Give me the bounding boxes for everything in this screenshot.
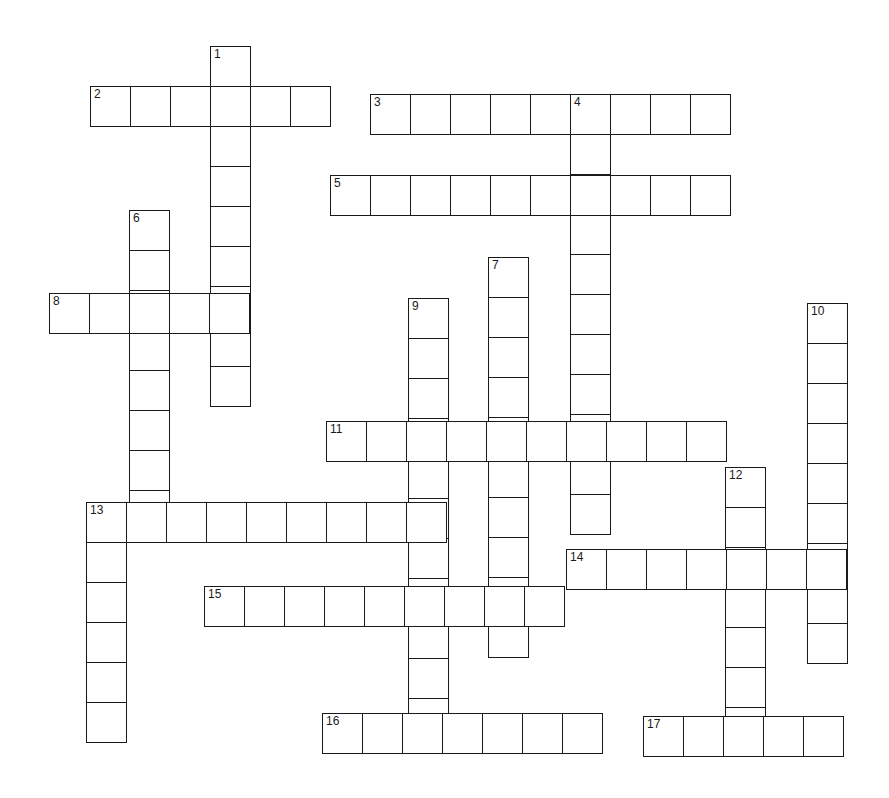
crossword-cell-8-across-3[interactable] [129,293,170,334]
crossword-cell-9-down-3[interactable] [408,378,449,419]
crossword-cell-10-down-1[interactable]: 10 [807,303,848,344]
crossword-cell-14-across-1[interactable]: 14 [566,549,607,590]
crossword-cell-17-across-4[interactable] [763,716,804,757]
crossword-cell-16-across-5[interactable] [482,713,523,754]
crossword-cell-2-across-2[interactable] [130,86,171,127]
crossword-cell-11-across-1[interactable]: 11 [326,421,367,462]
crossword-cell-13-across-7[interactable] [326,502,367,543]
crossword-cell-10-down-2[interactable] [807,343,848,384]
crossword-cell-4-down-6[interactable] [570,294,611,335]
crossword-cell-15-across-6[interactable] [404,586,445,627]
crossword-cell-4-down-8[interactable] [570,374,611,415]
crossword-cell-12-down-4[interactable] [725,587,766,628]
crossword-cell-11-across-7[interactable] [566,421,607,462]
crossword-cell-1-down-6[interactable] [210,246,251,287]
crossword-cell-11-across-4[interactable] [446,421,487,462]
crossword-cell-3-across-1[interactable]: 3 [370,94,411,135]
crossword-cell-4-down-11[interactable] [570,494,611,535]
crossword-cell-13-across-4[interactable] [206,502,247,543]
crossword-cell-15-across-9[interactable] [524,586,565,627]
crossword-cell-17-across-5[interactable] [803,716,844,757]
crossword-cell-2-across-4[interactable] [210,86,251,127]
crossword-cell-4-down-5[interactable] [570,254,611,295]
crossword-cell-17-across-3[interactable] [723,716,764,757]
crossword-cell-4-down-7[interactable] [570,334,611,375]
crossword-cell-12-down-2[interactable] [725,507,766,548]
crossword-cell-3-across-2[interactable] [410,94,451,135]
crossword-cell-12-down-1[interactable]: 12 [725,467,766,508]
crossword-cell-16-across-3[interactable] [402,713,443,754]
crossword-cell-5-across-3[interactable] [410,175,451,216]
crossword-cell-7-down-1[interactable]: 7 [488,257,529,298]
crossword-cell-3-across-8[interactable] [650,94,691,135]
crossword-cell-5-across-7[interactable] [570,175,611,216]
crossword-cell-15-across-1[interactable]: 15 [204,586,245,627]
crossword-cell-13-down-5[interactable] [86,662,127,703]
crossword-cell-13-across-8[interactable] [366,502,407,543]
crossword-cell-5-across-2[interactable] [370,175,411,216]
crossword-cell-4-down-4[interactable] [570,214,611,255]
crossword-cell-5-across-6[interactable] [530,175,571,216]
crossword-cell-13-down-4[interactable] [86,622,127,663]
crossword-cell-6-down-4[interactable] [129,330,170,371]
crossword-cell-10-down-3[interactable] [807,383,848,424]
crossword-cell-14-across-5[interactable] [726,549,767,590]
crossword-cell-8-across-5[interactable] [209,293,250,334]
crossword-cell-11-across-6[interactable] [526,421,567,462]
crossword-cell-6-down-6[interactable] [129,410,170,451]
crossword-cell-11-across-9[interactable] [646,421,687,462]
crossword-cell-17-across-1[interactable]: 17 [643,716,684,757]
crossword-cell-3-across-4[interactable] [490,94,531,135]
crossword-cell-1-down-1[interactable]: 1 [210,46,251,87]
crossword-cell-7-down-8[interactable] [488,537,529,578]
crossword-cell-15-across-8[interactable] [484,586,525,627]
crossword-cell-7-down-7[interactable] [488,497,529,538]
crossword-cell-11-across-5[interactable] [486,421,527,462]
crossword-cell-13-across-5[interactable] [246,502,287,543]
crossword-cell-12-down-5[interactable] [725,627,766,668]
crossword-cell-14-across-3[interactable] [646,549,687,590]
crossword-cell-7-down-3[interactable] [488,337,529,378]
crossword-cell-7-down-6[interactable] [488,457,529,498]
crossword-cell-17-across-2[interactable] [683,716,724,757]
crossword-cell-13-across-3[interactable] [166,502,207,543]
crossword-cell-5-across-5[interactable] [490,175,531,216]
crossword-cell-13-across-6[interactable] [286,502,327,543]
crossword-cell-2-across-1[interactable]: 2 [90,86,131,127]
crossword-cell-3-across-5[interactable] [530,94,571,135]
crossword-cell-2-across-3[interactable] [170,86,211,127]
crossword-cell-1-down-4[interactable] [210,166,251,207]
crossword-cell-13-across-1[interactable]: 13 [86,502,127,543]
crossword-cell-1-down-9[interactable] [210,366,251,407]
crossword-cell-15-across-3[interactable] [284,586,325,627]
crossword-cell-16-across-4[interactable] [442,713,483,754]
crossword-cell-15-across-5[interactable] [364,586,405,627]
crossword-cell-9-down-7[interactable] [408,538,449,579]
crossword-cell-13-across-9[interactable] [406,502,447,543]
crossword-cell-3-across-7[interactable] [610,94,651,135]
crossword-cell-10-down-9[interactable] [807,623,848,664]
crossword-cell-8-across-4[interactable] [169,293,210,334]
crossword-cell-16-across-7[interactable] [562,713,603,754]
crossword-cell-5-across-1[interactable]: 5 [330,175,371,216]
crossword-cell-6-down-7[interactable] [129,450,170,491]
crossword-cell-9-down-1[interactable]: 9 [408,298,449,339]
crossword-cell-5-across-10[interactable] [690,175,731,216]
crossword-cell-13-down-6[interactable] [86,702,127,743]
crossword-cell-1-down-5[interactable] [210,206,251,247]
crossword-cell-16-across-1[interactable]: 16 [322,713,363,754]
crossword-cell-15-across-2[interactable] [244,586,285,627]
crossword-cell-3-across-3[interactable] [450,94,491,135]
crossword-cell-4-down-2[interactable] [570,134,611,175]
crossword-cell-1-down-3[interactable] [210,126,251,167]
crossword-cell-5-across-4[interactable] [450,175,491,216]
crossword-cell-13-down-3[interactable] [86,582,127,623]
crossword-cell-11-across-2[interactable] [366,421,407,462]
crossword-cell-2-across-6[interactable] [290,86,331,127]
crossword-cell-6-down-5[interactable] [129,370,170,411]
crossword-cell-3-across-9[interactable] [690,94,731,135]
crossword-cell-8-across-1[interactable]: 8 [49,293,90,334]
crossword-cell-13-down-2[interactable] [86,542,127,583]
crossword-cell-9-down-10[interactable] [408,658,449,699]
crossword-cell-7-down-2[interactable] [488,297,529,338]
